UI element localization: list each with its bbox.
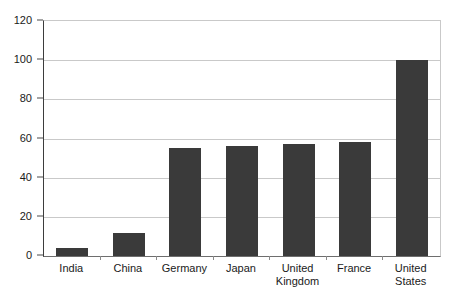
x-axis-tick-mark	[100, 256, 101, 260]
y-axis-tick-label: 120	[0, 15, 32, 26]
bar	[339, 142, 371, 256]
x-axis-category-labels: IndiaChinaGermanyJapanUnitedKingdomFranc…	[43, 262, 439, 302]
y-axis-tick-label: 60	[0, 132, 32, 143]
x-axis-tick-mark	[382, 256, 383, 260]
y-axis-tick-label: 20	[0, 210, 32, 221]
x-axis-tick-mark	[269, 256, 270, 260]
x-axis-tick-marks	[43, 256, 440, 261]
bar	[169, 148, 201, 256]
x-axis-category-label: Japan	[213, 262, 270, 275]
x-axis-category-label: India	[43, 262, 100, 275]
x-axis-category-label: Germany	[156, 262, 213, 275]
bar-series	[44, 21, 440, 256]
bar	[113, 233, 145, 257]
y-axis-tick-label: 80	[0, 93, 32, 104]
y-axis-tick-label: 100	[0, 54, 32, 65]
x-axis-category-label-line2: States	[382, 275, 439, 288]
bar	[56, 248, 88, 256]
x-axis-tick-mark	[326, 256, 327, 260]
plot-area	[43, 20, 441, 257]
x-axis-category-label: China	[100, 262, 157, 275]
y-axis-tick-label: 0	[0, 250, 32, 261]
x-axis-tick-mark	[156, 256, 157, 260]
x-axis-category-label: UnitedStates	[382, 262, 439, 288]
x-axis-category-label-line2: Kingdom	[269, 275, 326, 288]
y-axis-tick-label: 40	[0, 171, 32, 182]
x-axis-tick-mark	[213, 256, 214, 260]
bar	[226, 146, 258, 256]
bar	[283, 144, 315, 256]
bar	[396, 60, 428, 256]
y-axis-tick-labels: 020406080100120	[0, 0, 32, 303]
x-axis-category-label: UnitedKingdom	[269, 262, 326, 288]
x-axis-category-label: France	[326, 262, 383, 275]
bar-chart: 020406080100120 IndiaChinaGermanyJapanUn…	[0, 0, 452, 303]
